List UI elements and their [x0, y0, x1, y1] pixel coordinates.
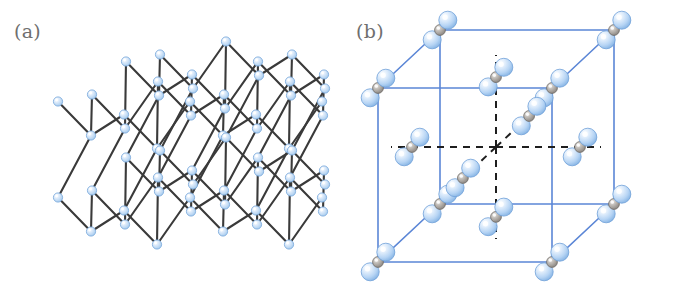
atom	[185, 97, 194, 106]
atom	[317, 97, 326, 106]
atom	[319, 70, 328, 79]
panel-b: (b)	[342, 0, 684, 290]
atom	[120, 220, 129, 229]
atom	[254, 71, 263, 80]
atom	[120, 124, 129, 133]
atom	[186, 207, 195, 216]
atom	[53, 193, 62, 202]
atom	[187, 70, 196, 79]
atom	[220, 200, 229, 209]
atom	[320, 84, 329, 93]
atom	[86, 227, 95, 236]
panel-a: (a)	[0, 0, 342, 290]
atom	[252, 220, 261, 229]
atom	[53, 97, 62, 106]
atom	[87, 186, 96, 195]
layered-lattice-diagram	[0, 0, 342, 290]
atom	[87, 90, 96, 99]
atom	[155, 50, 164, 59]
molecule-unit	[446, 159, 480, 197]
atom	[185, 193, 194, 202]
atom	[285, 173, 294, 182]
atom	[317, 193, 326, 202]
atom	[154, 91, 163, 100]
atom	[219, 90, 228, 99]
atom	[286, 91, 295, 100]
atom	[318, 207, 327, 216]
atom	[221, 37, 230, 46]
atom	[251, 110, 260, 119]
figure-root: (a) (b)	[0, 0, 684, 290]
atom	[152, 240, 161, 249]
atom	[219, 186, 228, 195]
unit-cell-diagram	[342, 0, 684, 290]
atom	[154, 187, 163, 196]
atom	[121, 153, 130, 162]
atom	[188, 180, 197, 189]
atom	[187, 166, 196, 175]
atom	[86, 131, 95, 140]
atom	[254, 167, 263, 176]
atom	[287, 146, 296, 155]
atom	[286, 187, 295, 196]
atom	[153, 173, 162, 182]
atom	[186, 111, 195, 120]
atom	[285, 77, 294, 86]
atom	[319, 166, 328, 175]
atom	[153, 77, 162, 86]
atom	[287, 50, 296, 59]
atom	[218, 227, 227, 236]
atom	[119, 110, 128, 119]
atom	[253, 153, 262, 162]
atom	[251, 206, 260, 215]
atom	[121, 57, 130, 66]
molecule-unit	[479, 58, 513, 96]
atom	[320, 180, 329, 189]
atom	[318, 111, 327, 120]
atom	[284, 240, 293, 249]
atom	[220, 104, 229, 113]
atom	[253, 57, 262, 66]
atom	[221, 133, 230, 142]
atom	[188, 84, 197, 93]
atom	[155, 146, 164, 155]
atom	[252, 124, 261, 133]
atom	[119, 206, 128, 215]
molecule-unit	[512, 97, 546, 135]
